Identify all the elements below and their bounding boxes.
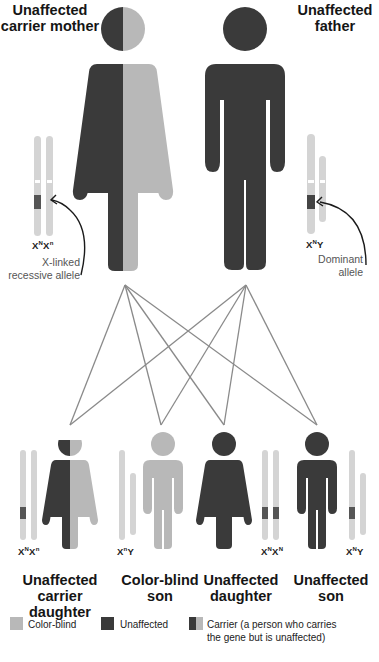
legend-carrier-label: Carrier (a person who carries the gene b… xyxy=(207,618,337,644)
child-2-title: Color-blind son xyxy=(115,572,205,604)
child-colorblind-son-chromosomes xyxy=(119,450,136,540)
father-figure xyxy=(205,7,285,270)
child-1-title: Unaffected carrier daughter xyxy=(5,572,115,620)
father-chromosomes xyxy=(307,134,326,234)
legend-unaffected-label: Unaffected xyxy=(120,618,168,631)
inheritance-lines xyxy=(70,285,317,425)
father-head-icon xyxy=(223,7,267,51)
pedigree-graphic xyxy=(0,0,379,662)
mother-figure xyxy=(73,7,173,271)
legend-carrier-swatch xyxy=(189,617,203,630)
dominant-allele-note: Dominant allele xyxy=(300,253,363,279)
mother-head-icon xyxy=(101,7,145,51)
child-1-genotype: XNXn xyxy=(18,546,40,557)
child-unaffected-daughter-chromosomes xyxy=(262,450,279,540)
child-4-title: Unaffected son xyxy=(286,572,376,604)
child-unaffected-daughter-figure xyxy=(196,432,252,549)
child-colorblind-son-figure xyxy=(143,432,183,549)
child-3-genotype: XNXN xyxy=(261,546,283,557)
dominant-allele-band xyxy=(307,195,315,209)
mother-body-icon xyxy=(73,64,173,271)
mother-title: Unaffected carrier mother xyxy=(0,2,100,34)
child-3-title: Unaffected daughter xyxy=(196,572,286,604)
child-unaffected-son-figure xyxy=(297,432,337,549)
recessive-allele-note: X-linked recessive allele xyxy=(0,256,80,282)
child-4-genotype: XNY xyxy=(346,546,364,557)
child-2-genotype: XnY xyxy=(117,546,134,557)
father-body-icon xyxy=(205,64,285,270)
father-title: Unaffected father xyxy=(290,2,379,34)
recessive-allele-band xyxy=(34,195,41,209)
mother-genotype: XNXn xyxy=(32,240,54,251)
mother-chromosomes xyxy=(34,136,53,236)
child-unaffected-son-chromosomes xyxy=(349,450,366,540)
father-genotype: XNY xyxy=(306,239,324,250)
legend-colorblind-label: Color-blind xyxy=(28,618,76,631)
child-carrier-daughter-chromosomes xyxy=(20,450,37,540)
child-carrier-daughter-figure xyxy=(42,432,98,549)
